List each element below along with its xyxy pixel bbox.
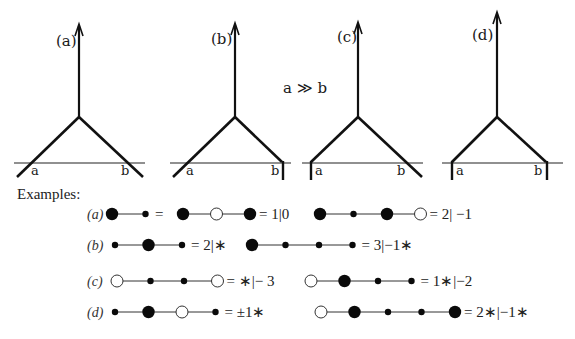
chain: = 2| −1 — [314, 206, 472, 222]
left-leg — [173, 117, 235, 177]
small-filled-node — [408, 278, 414, 284]
right-end-label: b — [534, 163, 542, 178]
right-leg — [235, 117, 282, 162]
open-node — [111, 275, 123, 287]
right-leg — [358, 117, 422, 177]
open-node — [176, 306, 188, 318]
example-row-b: (b)= 2|∗= 3|−1∗ — [87, 237, 413, 254]
open-node — [212, 275, 224, 287]
small-filled-node — [316, 242, 322, 248]
diagram-c: (c) a b — [302, 22, 423, 180]
left-leg — [17, 117, 79, 177]
small-filled-node — [385, 309, 391, 315]
chain-value: = 3|−1∗ — [362, 237, 414, 253]
small-filled-node — [282, 242, 288, 248]
right-leg — [79, 117, 143, 177]
open-node — [211, 208, 223, 220]
left-leg — [452, 117, 497, 162]
small-filled-node — [181, 278, 187, 284]
right-end-label: b — [121, 163, 129, 178]
equals-sign: = — [155, 206, 163, 222]
left-end-label: a — [315, 163, 323, 178]
chain: = 1∗|−2 — [305, 273, 472, 289]
large-filled-node — [142, 239, 154, 251]
example-row-c: (c)= ∗|− 3= 1∗|−2 — [87, 273, 472, 290]
chain-value: = ±1∗ — [225, 304, 266, 320]
chain: = ∗|− 3 — [111, 273, 274, 289]
left-end-label: a — [31, 163, 39, 178]
right-leg — [497, 117, 546, 162]
diagram-b: (b) a b — [170, 23, 291, 180]
chain-value: = 1∗|−2 — [421, 273, 473, 289]
right-end-label: b — [397, 163, 405, 178]
small-filled-node — [142, 211, 148, 217]
large-filled-node — [314, 208, 326, 220]
small-filled-node — [179, 242, 185, 248]
row-label: (c) — [87, 274, 103, 290]
diagram-label: (b) — [211, 30, 232, 48]
small-filled-node — [375, 278, 381, 284]
open-node — [415, 208, 427, 220]
example-row-a: (a)== 1|0= 2| −1 — [87, 206, 472, 223]
large-filled-node — [449, 306, 461, 318]
large-filled-node — [244, 208, 256, 220]
diagram-d: (d) a b — [442, 12, 563, 180]
chain-value: = 2|∗ — [191, 237, 227, 253]
chain: = ±1∗ — [112, 304, 266, 320]
large-filled-node — [338, 275, 350, 287]
small-filled-node — [418, 309, 424, 315]
open-node — [315, 306, 327, 318]
small-filled-node — [349, 242, 355, 248]
left-end-label: a — [456, 163, 464, 178]
chain: = 2|∗ — [112, 237, 227, 253]
small-filled-node — [212, 309, 218, 315]
chain: = 3|−1∗ — [246, 237, 413, 253]
large-filled-node — [348, 306, 360, 318]
large-filled-node — [106, 208, 118, 220]
small-filled-node — [147, 278, 153, 284]
left-leg — [311, 117, 358, 162]
open-node — [305, 275, 317, 287]
example-row-d: (d)= ±1∗= 2∗|−1∗ — [87, 304, 529, 321]
small-filled-node — [350, 211, 356, 217]
small-filled-node — [112, 309, 118, 315]
row-label: (a) — [87, 207, 104, 223]
diagram-label: (a) — [56, 32, 77, 50]
left-end-label: a — [186, 163, 194, 178]
chain: = 2∗|−1∗ — [315, 304, 529, 320]
large-filled-node — [177, 208, 189, 220]
diagram-a: (a) a b — [14, 24, 145, 178]
chain-value: = 1|0 — [259, 206, 289, 222]
row-label: (b) — [87, 238, 104, 254]
right-end-label: b — [271, 163, 279, 178]
diagram-label: (d) — [472, 26, 493, 44]
small-filled-node — [112, 242, 118, 248]
examples-rows: (a)== 1|0= 2| −1(b)= 2|∗= 3|−1∗(c)= ∗|− … — [87, 206, 529, 321]
chain: == 1|0 — [106, 206, 289, 222]
figure: (a) a b (b) a b a ≫ b (c) a b (d) — [0, 0, 575, 339]
diagram-label: (c) — [337, 28, 357, 46]
chain-value: = 2∗|−1∗ — [464, 304, 529, 320]
large-filled-node — [142, 306, 154, 318]
chain-value: = 2| −1 — [430, 206, 472, 222]
large-filled-node — [381, 208, 393, 220]
chain-value: = ∗|− 3 — [227, 273, 275, 289]
examples-title: Examples: — [17, 186, 80, 203]
row-label: (d) — [87, 305, 104, 321]
large-filled-node — [246, 239, 258, 251]
condition-label: a ≫ b — [283, 79, 327, 97]
